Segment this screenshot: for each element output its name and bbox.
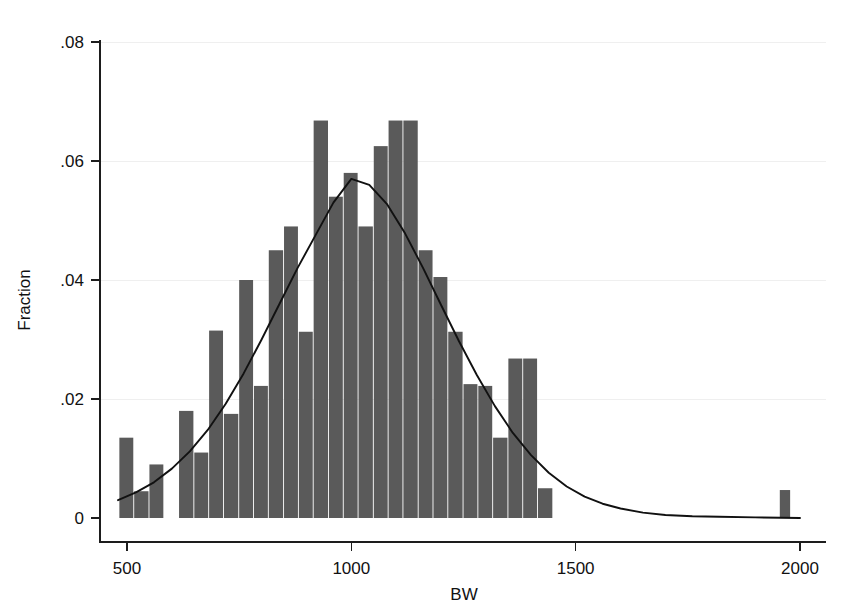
x-tick-label: 1500 [557,559,595,578]
histogram-bar [538,488,552,518]
histogram-bar [179,411,193,518]
histogram-bar [254,386,268,518]
histogram-bar [359,226,373,518]
histogram-bar [224,414,238,518]
histogram-bar [403,121,417,518]
x-tick-label: 1000 [332,559,370,578]
histogram-bar [478,386,492,518]
histogram-bar [464,384,478,518]
x-tick-label: 500 [113,559,141,578]
histogram-bar [239,280,253,518]
histogram-bar [314,121,328,518]
y-tick-label: .08 [60,33,84,52]
histogram-bar [194,453,208,518]
histogram-bar [149,464,163,518]
y-tick-label: .04 [60,271,84,290]
x-tick-label: 2000 [781,559,819,578]
histogram-bar [419,250,433,518]
histogram-bar [269,250,283,518]
histogram-figure: 0.02.04.06.08500100015002000 Fraction BW [0,0,844,612]
histogram-bar [134,491,148,518]
histogram-bar [299,332,313,518]
histogram-bars [119,121,790,518]
histogram-bar [389,121,403,518]
plot-canvas: 0.02.04.06.08500100015002000 Fraction BW [0,0,844,612]
x-axis-title: BW [450,585,477,604]
gridlines [100,42,826,399]
histogram-bar [344,173,358,518]
y-tick-label: 0 [75,509,84,528]
histogram-bar [119,438,133,518]
histogram-bar [523,359,537,518]
y-tick-label: .06 [60,152,84,171]
y-axis-title: Fraction [15,269,34,330]
histogram-bar [493,438,507,518]
y-tick-label: .02 [60,390,84,409]
histogram-bar [448,332,462,518]
histogram-bar [780,490,790,518]
histogram-bar [329,197,343,518]
histogram-bar [508,359,522,518]
